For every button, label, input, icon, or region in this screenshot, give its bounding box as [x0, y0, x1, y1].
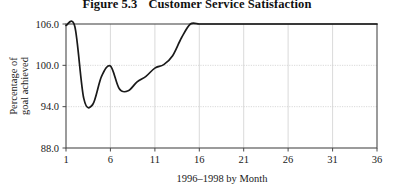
x-tick-label-4: 21 [238, 154, 249, 165]
y-axis-tick-labels: 106.0 100.0 94.0 88.0 [35, 19, 59, 154]
x-axis-title: 1996–1998 by Month [176, 173, 268, 184]
x-tick-label-3: 16 [194, 154, 205, 165]
y-axis-title-line2: goal achieved [19, 56, 30, 115]
y-tick-label-0: 106.0 [35, 19, 59, 30]
line-chart: 106.0 100.0 94.0 88.0 1 6 11 16 21 26 31… [0, 0, 394, 191]
x-tick-label-0: 1 [63, 154, 68, 165]
y-tick-label-1: 100.0 [35, 60, 59, 71]
x-tick-label-2: 11 [150, 154, 160, 165]
y-tick-label-2: 94.0 [41, 101, 59, 112]
x-tick-label-7: 36 [372, 154, 383, 165]
x-tick-label-6: 31 [327, 154, 338, 165]
figure-container: Figure 5.3Customer Service Satisfaction [0, 0, 394, 191]
y-axis-title-line1: Percentage of [8, 57, 19, 115]
x-tick-label-5: 26 [283, 154, 294, 165]
y-tick-label-3: 88.0 [41, 143, 59, 154]
x-axis-tick-labels: 1 6 11 16 21 26 31 36 [63, 154, 382, 165]
x-tick-label-1: 6 [108, 154, 113, 165]
plot-background [66, 24, 377, 148]
y-axis-title: Percentage of goal achieved [8, 56, 30, 115]
chart-plot-area: 106.0 100.0 94.0 88.0 1 6 11 16 21 26 31… [0, 0, 394, 191]
